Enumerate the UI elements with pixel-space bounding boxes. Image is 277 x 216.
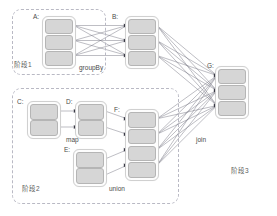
partition-cell[interactable] [45,35,73,50]
rdd-label-a: A: [33,13,39,20]
rdd-label-f: F: [114,106,120,113]
partition-cell[interactable] [76,152,104,168]
partition-cell[interactable] [45,19,73,34]
rdd-node-f[interactable] [125,109,159,181]
rdd-node-g[interactable] [215,66,249,119]
rdd-label-e: E: [64,146,70,153]
operation-label-join: join [196,136,206,143]
partition-cell[interactable] [218,69,246,84]
rdd-node-c[interactable] [27,101,61,139]
operation-label-map: map [66,136,79,143]
partition-cell[interactable] [128,129,156,145]
partition-cell[interactable] [78,104,104,120]
partition-cell[interactable] [128,19,156,34]
rdd-label-b: B: [112,13,118,20]
rdd-node-b[interactable] [125,16,159,69]
rdd-label-g: G: [207,62,214,69]
partition-cell[interactable] [128,51,156,66]
partition-cell[interactable] [128,146,156,162]
rdd-node-a[interactable] [42,16,76,69]
rdd-node-d[interactable] [75,101,107,139]
partition-cell[interactable] [78,120,104,136]
partition-cell[interactable] [45,51,73,66]
partition-cell[interactable] [30,120,58,136]
rdd-node-e[interactable] [73,149,107,187]
rdd-label-d: D: [66,98,73,105]
partition-cell[interactable] [76,168,104,184]
partition-cell[interactable] [218,85,246,100]
partition-cell[interactable] [128,112,156,128]
partition-cell[interactable] [218,101,246,116]
partition-cell[interactable] [128,35,156,50]
operation-label-union: union [109,185,125,192]
operation-label-groupby: groupBy [79,64,103,71]
dag-diagram-canvas: 阶段1 阶段2 阶段3 A: B: C: D: E: F: G: groupBy… [0,0,277,216]
stage-label-stage2: 阶段2 [22,183,40,193]
rdd-label-c: C: [17,98,24,105]
stage-label-stage1: 阶段1 [14,59,32,69]
partition-cell[interactable] [30,104,58,120]
stage-label-stage3: 阶段3 [231,165,249,175]
partition-cell[interactable] [128,162,156,178]
